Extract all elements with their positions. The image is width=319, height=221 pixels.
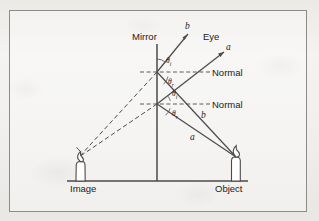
ray-label-b-mid: b <box>201 111 206 121</box>
image-candle <box>76 147 85 181</box>
angle-label-theta-i-lower: θi <box>172 90 177 100</box>
angle-arc-theta-i-lower <box>168 96 170 101</box>
angle-label-theta-i-upper: θi <box>166 57 171 67</box>
ray-label-a-top: a <box>226 43 231 53</box>
angle-label-theta-r-upper: θr <box>168 78 174 88</box>
virtual-ray-upper <box>79 72 157 157</box>
object-candle <box>232 146 241 181</box>
normal-label-upper: Normal <box>212 68 243 78</box>
angle-label-theta-r-lower: θr <box>172 110 178 120</box>
object-flame <box>233 146 239 157</box>
angle-arc-theta-i-upper <box>157 59 165 62</box>
image-label: Image <box>70 184 96 194</box>
figure-page: Mirror Eye b a Normal Normal θi θr θi θr… <box>0 0 319 221</box>
mirror-label: Mirror <box>132 32 157 42</box>
reflected-ray-b <box>157 34 188 72</box>
normal-label-lower: Normal <box>212 100 243 110</box>
image-flame-tip <box>76 147 80 151</box>
ray-diagram <box>0 0 319 221</box>
object-label: Object <box>215 184 242 194</box>
ray-label-a-low: a <box>190 133 195 143</box>
ray-label-b-top: b <box>185 22 190 32</box>
virtual-ray-lower <box>79 104 157 157</box>
eye-label: Eye <box>203 32 219 42</box>
